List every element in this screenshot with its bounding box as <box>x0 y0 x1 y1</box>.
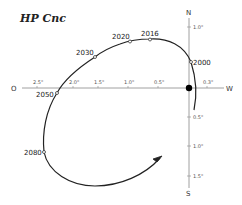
year-label-2020: 2020 <box>112 33 130 41</box>
tick-label-v: 0.5" <box>193 114 203 120</box>
axis-label-west: W <box>226 85 233 93</box>
tick-label-h: 2.0" <box>69 79 79 85</box>
pole-path-curve <box>44 39 196 186</box>
axis-label-south: S <box>186 190 191 198</box>
year-label-2030: 2030 <box>76 49 94 57</box>
tick-label-v: 1.5" <box>193 173 203 179</box>
axis-label-east: O <box>11 85 17 93</box>
year-marker-2050 <box>56 92 59 95</box>
tick-label-h: 0.3" <box>203 79 213 85</box>
current-pole-marker <box>186 85 192 91</box>
year-label-2080: 2080 <box>24 149 42 157</box>
year-label-2050: 2050 <box>36 91 54 99</box>
tick-label-h: 0.5" <box>154 79 164 85</box>
tick-label-h: 1.0" <box>124 79 134 85</box>
tick-label-v: 1.0" <box>193 24 203 30</box>
tick-label-h: 2.5" <box>33 79 43 85</box>
tick-label-h: 1.5" <box>94 79 104 85</box>
year-marker-2016 <box>149 38 152 41</box>
year-marker-2030 <box>94 56 97 59</box>
year-label-2000: 2000 <box>193 59 211 67</box>
arrowhead-icon <box>153 156 162 162</box>
year-label-2016: 2016 <box>141 30 159 38</box>
axis-label-north: N <box>186 9 191 17</box>
tick-label-v: 1.0" <box>193 143 203 149</box>
year-marker-2080 <box>43 151 46 154</box>
pole-path-diagram: O W N S 2.5" 2.0" 1.5" 1.0" 0.5" 0.3" 1.… <box>0 0 242 205</box>
